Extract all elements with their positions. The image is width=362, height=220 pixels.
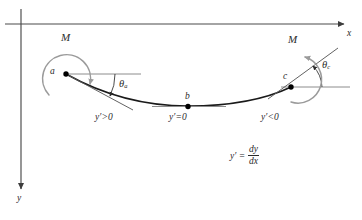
moment-label-c: M bbox=[288, 34, 297, 45]
moment-arc-c-group bbox=[291, 57, 322, 103]
moment-label-a: M bbox=[61, 32, 70, 43]
theta-c-subscript: c bbox=[327, 63, 330, 70]
slope-label-right: y′<0 bbox=[261, 113, 279, 123]
moment-arc-c bbox=[291, 57, 322, 103]
y-axis-label: y bbox=[17, 194, 21, 204]
theta-a-subscript: a bbox=[124, 82, 127, 89]
point-a-marker bbox=[63, 71, 68, 76]
point-label-b: b bbox=[185, 92, 190, 102]
equation-lhs: y′ = bbox=[230, 151, 247, 161]
point-b-marker bbox=[185, 104, 190, 109]
theta-c-label: θc bbox=[322, 60, 330, 71]
deflection-curve-group bbox=[66, 74, 291, 106]
point-label-c: c bbox=[283, 72, 287, 82]
beam-deflection-figure: x y a b c M M θa θc y′>0 y′=0 y′<0 y′ = … bbox=[0, 0, 362, 220]
slope-label-center: y′=0 bbox=[169, 113, 187, 123]
x-axis-label: x bbox=[347, 29, 351, 39]
equation-denominator: dx bbox=[248, 155, 259, 166]
point-c-marker bbox=[288, 84, 293, 89]
equation-fraction: dy dx bbox=[247, 145, 259, 167]
slope-label-left: y′>0 bbox=[95, 113, 113, 123]
equation-numerator: dy bbox=[248, 145, 259, 155]
tangent-line-c bbox=[268, 48, 338, 99]
slope-definition-equation: y′ = dy dx bbox=[230, 145, 259, 167]
angle-arc-a bbox=[110, 74, 115, 96]
theta-a-label: θa bbox=[119, 79, 128, 90]
point-label-a: a bbox=[50, 67, 55, 77]
diagram-canvas bbox=[0, 0, 362, 220]
deflection-curve bbox=[66, 74, 291, 106]
